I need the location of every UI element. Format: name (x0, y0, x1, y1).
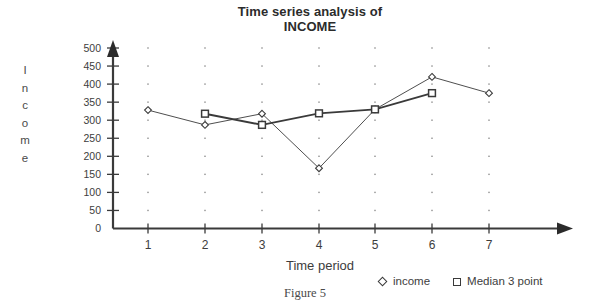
grid-dot (261, 156, 262, 157)
grid-dot (488, 65, 489, 66)
grid-dot (147, 83, 148, 84)
grid-dot (318, 65, 319, 66)
grid-dot (374, 47, 375, 48)
grid-dot (431, 156, 432, 157)
y-axis-tick-label: 100 (83, 186, 101, 198)
y-axis-tick-label: 250 (83, 132, 101, 144)
grid-dot (488, 210, 489, 211)
grid-dot (374, 120, 375, 121)
grid-dot (261, 174, 262, 175)
figure-caption: Figure 5 (215, 286, 395, 301)
y-axis-tick-label: 500 (83, 42, 101, 54)
y-axis-tick-label: 0 (95, 222, 101, 234)
x-axis-arrow-icon (557, 223, 573, 235)
grid-dot (204, 47, 205, 48)
figure-container: Time series analysis of INCOME I n c o m… (0, 0, 612, 308)
x-axis-title: Time period (230, 258, 410, 273)
legend-entry-median-3-point[interactable]: Median 3 point (452, 275, 542, 287)
y-axis-tick-label: 400 (83, 78, 101, 90)
grid-dot (488, 120, 489, 121)
data-point-diamond (145, 107, 152, 114)
y-axis-tick-label: 350 (83, 96, 101, 108)
grid-dot (374, 174, 375, 175)
grid-dot (431, 120, 432, 121)
data-point-square (202, 110, 209, 117)
grid-dot (318, 138, 319, 139)
grid-dot (431, 47, 432, 48)
grid-dot (318, 156, 319, 157)
grid-dot (204, 83, 205, 84)
series-line-income (148, 77, 489, 168)
chart-legend: income Median 3 point (378, 275, 543, 287)
grid-dot (488, 192, 489, 193)
grid-dot (488, 47, 489, 48)
grid-dot (488, 83, 489, 84)
grid-dot (204, 156, 205, 157)
series-lines (148, 77, 489, 168)
grid-dot (147, 174, 148, 175)
data-point-diamond (486, 90, 493, 97)
y-axis-tick-label: 150 (83, 168, 101, 180)
grid-dot (431, 138, 432, 139)
grid-dot (431, 65, 432, 66)
x-axis-tick-label: 5 (372, 238, 379, 252)
grid-dot (147, 120, 148, 121)
grid-dot (204, 101, 205, 102)
grid-dot (147, 65, 148, 66)
grid-dot (261, 192, 262, 193)
x-axis-tick-label: 1 (145, 238, 152, 252)
grid-dot (261, 65, 262, 66)
grid-dot (261, 83, 262, 84)
grid-dot (204, 138, 205, 139)
grid-dot (261, 120, 262, 121)
grid-dot (318, 101, 319, 102)
grid-dot (431, 83, 432, 84)
grid-dot (431, 210, 432, 211)
grid-dot (318, 192, 319, 193)
grid-dot (374, 101, 375, 102)
data-point-square (429, 90, 436, 97)
grid-dot (318, 120, 319, 121)
data-point-square (372, 106, 379, 113)
grid-dot (147, 47, 148, 48)
grid-dot (204, 174, 205, 175)
x-axis-tick-label: 3 (259, 238, 266, 252)
grid-dot (374, 138, 375, 139)
grid-dot (488, 156, 489, 157)
grid-dot (204, 192, 205, 193)
grid-dot (374, 65, 375, 66)
y-axis-tick-label: 200 (83, 150, 101, 162)
x-axis-tick-label: 2 (202, 238, 209, 252)
grid-dot (374, 83, 375, 84)
grid-dot (204, 120, 205, 121)
grid-dot (318, 210, 319, 211)
data-point-diamond (429, 73, 436, 80)
grid-dot (318, 47, 319, 48)
data-point-square (316, 110, 323, 117)
x-axis-tick-label: 4 (316, 238, 323, 252)
legend-label-median: Median 3 point (467, 275, 542, 287)
x-axis-tick-label: 6 (429, 238, 436, 252)
grid-dot (318, 174, 319, 175)
grid-dot (147, 138, 148, 139)
grid-dot (318, 83, 319, 84)
grid-dot (374, 156, 375, 157)
diamond-marker-icon (378, 277, 387, 286)
square-marker-icon (452, 277, 461, 286)
grid-dot (431, 192, 432, 193)
grid-dot (261, 138, 262, 139)
grid-dot (374, 192, 375, 193)
grid-dot (488, 101, 489, 102)
grid-dot (431, 174, 432, 175)
grid-dots (147, 47, 489, 211)
grid-dot (488, 138, 489, 139)
grid-dot (488, 174, 489, 175)
x-axis-tick-labels: 1234567 (145, 238, 493, 252)
grid-dot (204, 210, 205, 211)
grid-dot (374, 210, 375, 211)
legend-label-income: income (393, 275, 430, 287)
grid-dot (261, 47, 262, 48)
grid-dot (431, 101, 432, 102)
y-axis-tick-label: 450 (83, 60, 101, 72)
grid-dot (147, 101, 148, 102)
